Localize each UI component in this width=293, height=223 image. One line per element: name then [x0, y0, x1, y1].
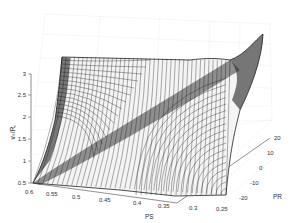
x-tick: 0.5 [72, 194, 81, 200]
y-tick: -10 [250, 180, 259, 186]
x-tick: 0.45 [99, 197, 111, 203]
z-tick: 2.5 [18, 92, 27, 98]
x-tick: 0.3 [189, 205, 198, 211]
y-tick: -20 [239, 195, 248, 201]
z-tick: 1 [23, 158, 27, 164]
z-tick: 3 [23, 71, 27, 77]
x-tick: 0.4 [133, 200, 142, 206]
z-axis-label: vₛ/R꜀ [9, 125, 16, 140]
x-tick: 0.6 [25, 189, 34, 195]
y-tick: 10 [267, 150, 274, 156]
z-tick: 2 [23, 114, 27, 120]
x-tick: 0.55 [46, 191, 58, 197]
surface-plot: 3 2.5 2 1.5 1 0.5 vₛ/R꜀ 0.6 0.55 0.5 0.4… [0, 0, 293, 223]
x-tick: 0.25 [216, 206, 228, 212]
x-axis-label: PS [145, 213, 154, 220]
x-tick: 0.35 [158, 203, 170, 209]
z-tick: 0.5 [18, 180, 27, 186]
z-axis-ticks: 3 2.5 2 1.5 1 0.5 [18, 71, 27, 186]
z-tick: 1.5 [18, 136, 27, 142]
y-axis-label: PR [273, 193, 282, 200]
y-tick: 20 [274, 135, 281, 141]
z-tick-marks [28, 74, 31, 183]
